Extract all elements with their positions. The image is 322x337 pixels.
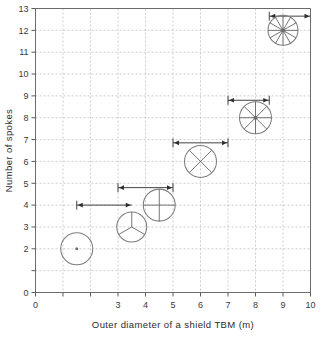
arrowhead-left bbox=[174, 141, 179, 146]
x-tick-label: 10 bbox=[305, 300, 315, 310]
x-tick-label: 3 bbox=[115, 300, 120, 310]
cutterhead-4-spokes[interactable] bbox=[143, 189, 175, 221]
arrowhead-left bbox=[119, 185, 124, 190]
arrowhead-right bbox=[222, 141, 227, 146]
marker-spoke bbox=[256, 106, 267, 117]
cutterhead-12-spokes[interactable] bbox=[268, 15, 298, 45]
y-tick-label: 3 bbox=[23, 222, 28, 232]
arrowhead-right bbox=[305, 14, 310, 19]
y-tick-label: 11 bbox=[19, 47, 28, 57]
arrowhead-right bbox=[126, 203, 131, 208]
x-tick-label: 8 bbox=[253, 300, 258, 310]
marker-spoke bbox=[244, 106, 255, 117]
marker-spoke bbox=[244, 118, 255, 129]
scatter-chart: 034567891002345678910111213Outer diamete… bbox=[0, 0, 322, 337]
y-tick-label: 0 bbox=[23, 288, 28, 298]
y-tick-label: 6 bbox=[23, 157, 28, 167]
arrowhead-right bbox=[167, 185, 172, 190]
y-tick-label: 9 bbox=[23, 91, 28, 101]
marker-hub bbox=[281, 28, 285, 32]
y-tick-label: 13 bbox=[18, 4, 28, 14]
x-axis-ticks: 0345678910 bbox=[33, 293, 316, 310]
y-tick-label: 5 bbox=[23, 179, 28, 189]
range-arrows bbox=[77, 12, 311, 210]
x-axis-title: Outer diameter of a shield TBM (m) bbox=[92, 319, 254, 330]
range-3-spokes bbox=[118, 183, 173, 192]
data-points bbox=[61, 15, 298, 264]
marker-hub bbox=[75, 247, 78, 250]
arrowhead-left bbox=[229, 98, 234, 103]
y-tick-label: 7 bbox=[23, 135, 28, 145]
x-tick-label: 7 bbox=[225, 300, 230, 310]
y-tick-label: 8 bbox=[23, 113, 28, 123]
marker-spoke bbox=[119, 227, 132, 235]
cutterhead-8-spokes[interactable] bbox=[240, 102, 272, 134]
y-axis-ticks: 02345678910111213 bbox=[18, 4, 35, 298]
axis-titles: Outer diameter of a shield TBM (m)Number… bbox=[3, 109, 254, 330]
y-tick-label: 12 bbox=[18, 26, 28, 36]
marker-spoke bbox=[132, 227, 145, 235]
arrowhead-right bbox=[263, 98, 268, 103]
y-tick-label: 2 bbox=[23, 244, 28, 254]
x-tick-label: 4 bbox=[143, 300, 148, 310]
x-tick-label: 0 bbox=[33, 300, 38, 310]
y-tick-label: 10 bbox=[18, 69, 28, 79]
y-axis-title: Number of spokes bbox=[3, 109, 14, 193]
marker-spoke bbox=[256, 118, 267, 129]
x-tick-label: 9 bbox=[280, 300, 285, 310]
arrowhead-left bbox=[78, 203, 83, 208]
x-tick-label: 5 bbox=[170, 300, 175, 310]
chart-figure: 034567891002345678910111213Outer diamete… bbox=[0, 0, 322, 337]
range-2-spokes bbox=[77, 201, 132, 210]
x-tick-label: 6 bbox=[198, 300, 203, 310]
marker-hub bbox=[253, 116, 257, 120]
y-tick-label: 4 bbox=[23, 200, 28, 210]
